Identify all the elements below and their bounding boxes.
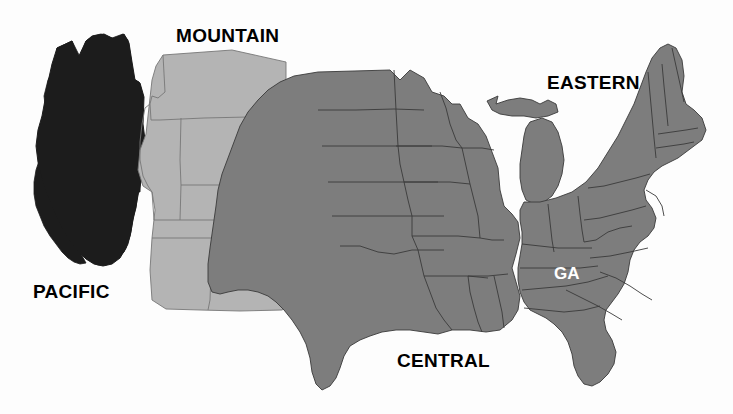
map-graphic bbox=[0, 0, 733, 414]
zone-eastern[interactable] bbox=[487, 44, 706, 386]
zone-central[interactable] bbox=[208, 70, 520, 390]
state-mi-up[interactable] bbox=[487, 96, 558, 118]
zone-central-silhouette[interactable] bbox=[208, 70, 520, 390]
zone-label-eastern: EASTERN bbox=[547, 72, 640, 94]
zone-label-pacific: PACIFIC bbox=[33, 281, 110, 303]
state-mi-lp[interactable] bbox=[520, 118, 564, 204]
state-label-ga: GA bbox=[554, 264, 580, 284]
zone-label-central: CENTRAL bbox=[397, 350, 490, 372]
time-zone-map: PACIFIC MOUNTAIN CENTRAL EASTERN GA bbox=[0, 0, 733, 414]
zone-label-mountain: MOUNTAIN bbox=[176, 25, 279, 47]
